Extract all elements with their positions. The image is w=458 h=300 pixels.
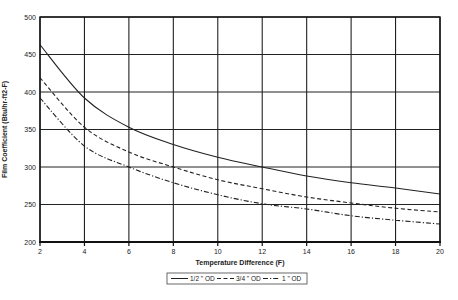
series-line-dashed bbox=[40, 78, 440, 212]
legend: 1/2 " OD3/4 " OD1 " OD bbox=[167, 273, 307, 284]
x-tick-label: 18 bbox=[392, 248, 400, 255]
legend-label: 1 " OD bbox=[282, 275, 302, 282]
y-tick-label: 450 bbox=[24, 51, 36, 58]
x-tick-label: 16 bbox=[347, 248, 355, 255]
tick-labels: 2468101214161820200250300350400450500 bbox=[24, 14, 444, 256]
x-tick-label: 10 bbox=[214, 248, 222, 255]
x-axis-title: Temperature Difference (F) bbox=[196, 259, 285, 267]
y-tick-label: 200 bbox=[24, 239, 36, 246]
series-line-dash-dot bbox=[40, 98, 440, 224]
x-tick-label: 8 bbox=[171, 248, 175, 255]
x-tick-label: 2 bbox=[38, 248, 42, 255]
y-tick-label: 350 bbox=[24, 126, 36, 133]
y-tick-label: 250 bbox=[24, 201, 36, 208]
y-tick-label: 300 bbox=[24, 164, 36, 171]
legend-label: 1/2 " OD bbox=[190, 275, 215, 282]
chart: 2468101214161820200250300350400450500 Te… bbox=[0, 0, 458, 300]
x-tick-label: 12 bbox=[258, 248, 266, 255]
y-axis-title: Film Coefficient (Btu/hr-ft2-F) bbox=[1, 81, 9, 178]
series-line-solid bbox=[40, 45, 440, 194]
legend-label: 3/4 " OD bbox=[236, 275, 261, 282]
y-tick-label: 500 bbox=[24, 14, 36, 21]
x-tick-label: 20 bbox=[436, 248, 444, 255]
y-tick-label: 400 bbox=[24, 89, 36, 96]
series-group bbox=[40, 45, 440, 224]
grid bbox=[40, 17, 440, 242]
x-tick-label: 6 bbox=[127, 248, 131, 255]
x-tick-label: 14 bbox=[303, 248, 311, 255]
axes bbox=[39, 17, 441, 246]
x-tick-label: 4 bbox=[82, 248, 86, 255]
